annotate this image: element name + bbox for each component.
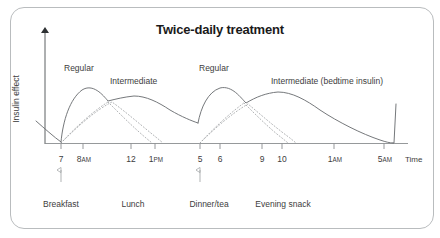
curve-label-intermediate-evening: Intermediate (bedtime insulin) <box>271 76 383 86</box>
curve-label-regular-evening: Regular <box>199 63 229 73</box>
combined-insulin-curve <box>36 88 396 143</box>
curve-label-regular-morning: Regular <box>64 63 94 73</box>
x-tick-12: 12 <box>121 154 141 164</box>
meal-label-lunch: Lunch <box>110 199 156 209</box>
x-axis <box>45 144 408 150</box>
curve-label-intermediate-morning: Intermediate <box>110 76 157 86</box>
insulin-profile-figure: Twice-daily treatment Insulin effect <box>0 0 440 238</box>
x-tick-1am: 1AM <box>323 154 347 164</box>
x-tick-7: 7 <box>51 154 71 164</box>
x-tick-1pm: 1PM <box>144 154 168 164</box>
x-tick-6: 6 <box>210 154 230 164</box>
x-tick-9: 9 <box>252 154 272 164</box>
x-tick-5: 5 <box>190 154 210 164</box>
injection-markers <box>61 170 200 182</box>
meal-label-breakfast: Breakfast <box>31 199 91 209</box>
x-tick-5am: 5AM <box>373 154 397 164</box>
x-axis-label: Time <box>405 155 422 164</box>
meal-label-dinner: Dinner/tea <box>177 199 241 209</box>
x-tick-8am: 8AM <box>72 154 96 164</box>
evening-component-curves <box>200 103 296 143</box>
x-tick-10: 10 <box>272 154 292 164</box>
morning-component-curves <box>61 102 163 143</box>
meal-label-evening-snack: Evening snack <box>242 199 324 209</box>
